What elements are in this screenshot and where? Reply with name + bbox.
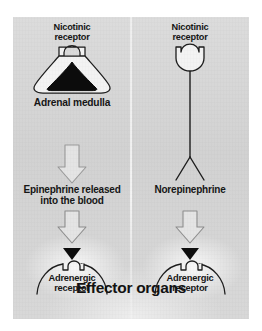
left-pathway-column: Nicotinic receptor [13,17,131,319]
left-arrow-2-hollow-down [58,211,86,243]
axon-terminal-branches [176,157,204,180]
right-arrow-1-hollow-down [176,211,204,243]
postganglionic-neuron-soma [176,44,204,71]
right-nicotinic-receptor-line2: receptor [131,33,249,43]
left-nicotinic-receptor-label: Nicotinic receptor [13,23,131,43]
right-ligand-triangle [181,248,199,260]
effector-organs-title: Effector organs [13,279,249,297]
medulla-fill-mass [47,62,97,91]
left-arrow-1-hollow-down [58,145,86,183]
epinephrine-label: Epinephrine released into the blood [13,185,131,207]
adrenal-medulla-flask [34,46,110,94]
left-nicotinic-receptor-line2: receptor [13,33,131,43]
epinephrine-line2: into the blood [13,196,131,207]
right-nicotinic-receptor-label: Nicotinic receptor [131,23,249,43]
diagram-panel: Nicotinic receptor [13,17,249,319]
figure-canvas: Nicotinic receptor [0,0,262,331]
left-ligand-triangle [63,248,81,260]
right-pathway-column: Nicotinic receptor [131,17,249,319]
norepinephrine-label: Norepinephrine [131,185,249,196]
adrenal-medulla-label: Adrenal medulla [13,97,131,108]
